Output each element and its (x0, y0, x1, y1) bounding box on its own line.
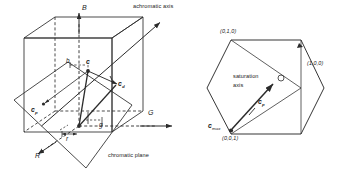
red-axis-label: R (35, 152, 40, 160)
sample-point-circle (278, 75, 284, 81)
figure-container: B G R achromatic axis chromatic plane c … (0, 0, 340, 173)
cp-vector-label-hex: cp (258, 98, 265, 108)
cd-vector-label: cd (118, 80, 125, 90)
red-axis (38, 126, 79, 154)
cp-vector-label-cube: cp (31, 106, 38, 116)
cd-projection-line (79, 71, 117, 126)
achromatic-axis-label: achromatic axis (133, 3, 173, 9)
saturation-axis-arrow (229, 84, 273, 133)
green-axis-label: G (148, 109, 154, 117)
blue-axis-label: B (82, 4, 87, 12)
blue-component-label: b (66, 57, 70, 64)
figure-vector-layer (0, 0, 340, 173)
green-component-label: g (99, 121, 103, 128)
r-component-guide (60, 125, 77, 137)
saturation-axis-label-line2: axis (233, 82, 243, 88)
cube-front-face (24, 38, 112, 132)
hex-red-vertex-label: (1,0,0) (307, 60, 323, 66)
cube-right-face (112, 17, 143, 132)
hex-blue-vertex-label: (0,0,1) (222, 135, 238, 141)
cmax-vector-label: cmax (208, 122, 221, 132)
hexagon-vertex-arrow (297, 43, 303, 48)
cp-projection-line (42, 71, 88, 106)
hexagon-outline (207, 40, 324, 134)
cp-vector-subscript-cube: p (35, 110, 38, 115)
hex-green-vertex-label: (0,1,0) (220, 28, 236, 34)
cd-vector-subscript: d (122, 84, 125, 89)
hexagon-group (207, 40, 324, 134)
cube-top-face (24, 17, 143, 38)
cp-vector-subscript-hex: p (262, 102, 265, 107)
saturation-axis-label-line1: saturation (233, 73, 259, 79)
chromatic-plane-label: chromatic plane (108, 152, 149, 158)
cmax-vector-subscript: max (212, 126, 221, 131)
red-component-label: r (66, 135, 68, 142)
color-vector-label: c (86, 58, 90, 66)
